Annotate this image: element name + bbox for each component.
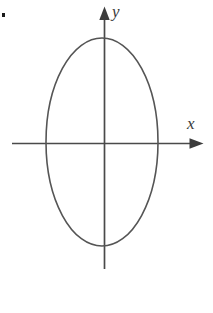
- y-axis-group: [99, 7, 109, 270]
- x-axis-group: [12, 138, 204, 149]
- ellipse-curve: [46, 38, 158, 246]
- y-axis-label: y: [112, 3, 120, 20]
- x-axis-arrowhead: [190, 138, 204, 149]
- figure-canvas: y x: [0, 0, 213, 313]
- y-axis-arrowhead: [99, 7, 109, 21]
- coordinate-plane-graphic: [0, 0, 213, 313]
- x-axis-label: x: [187, 115, 195, 132]
